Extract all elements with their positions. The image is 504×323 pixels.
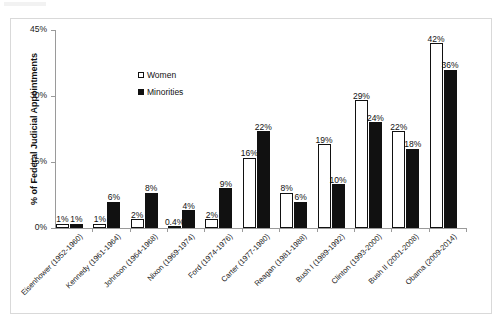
bar-value-label: 9% [220, 180, 232, 189]
y-tick-label: 30% [30, 90, 47, 100]
bar-value-label: 22% [390, 123, 407, 132]
scan-artifact [4, 2, 46, 6]
bar-value-label: 16% [241, 149, 258, 158]
x-axis-line [55, 228, 467, 229]
bar-value-label: 24% [367, 114, 384, 123]
x-axis-labels: Eisenhower (1952-1960)Kennedy (1961-1964… [55, 230, 466, 310]
bar-group: 1%1% [55, 30, 92, 228]
bar-value-label: 18% [404, 140, 421, 149]
bar-minorities: 18% [406, 149, 419, 228]
bar-value-label: 8% [281, 184, 293, 193]
y-tick-label: 0% [35, 222, 47, 232]
bar-value-label: 1% [70, 215, 82, 224]
y-tick-label: 45% [30, 24, 47, 34]
bar-value-label: 29% [353, 92, 370, 101]
y-tick-label: 15% [30, 156, 47, 166]
bar-value-label: 22% [255, 123, 272, 132]
chart-figure: % of Federal Judicial Appointments 0%15%… [0, 0, 504, 323]
bar-value-label: 36% [442, 61, 459, 70]
y-axis-title: % of Federal Judicial Appointments [29, 53, 39, 205]
bar-value-label: 10% [330, 176, 347, 185]
bar-value-label: 1% [56, 215, 68, 224]
bar-women: 1% [56, 224, 69, 228]
y-tick-mark [51, 228, 55, 229]
bar-value-label: 42% [428, 35, 445, 44]
bar-women: 42% [430, 43, 443, 228]
bar-value-label: 19% [316, 136, 333, 145]
